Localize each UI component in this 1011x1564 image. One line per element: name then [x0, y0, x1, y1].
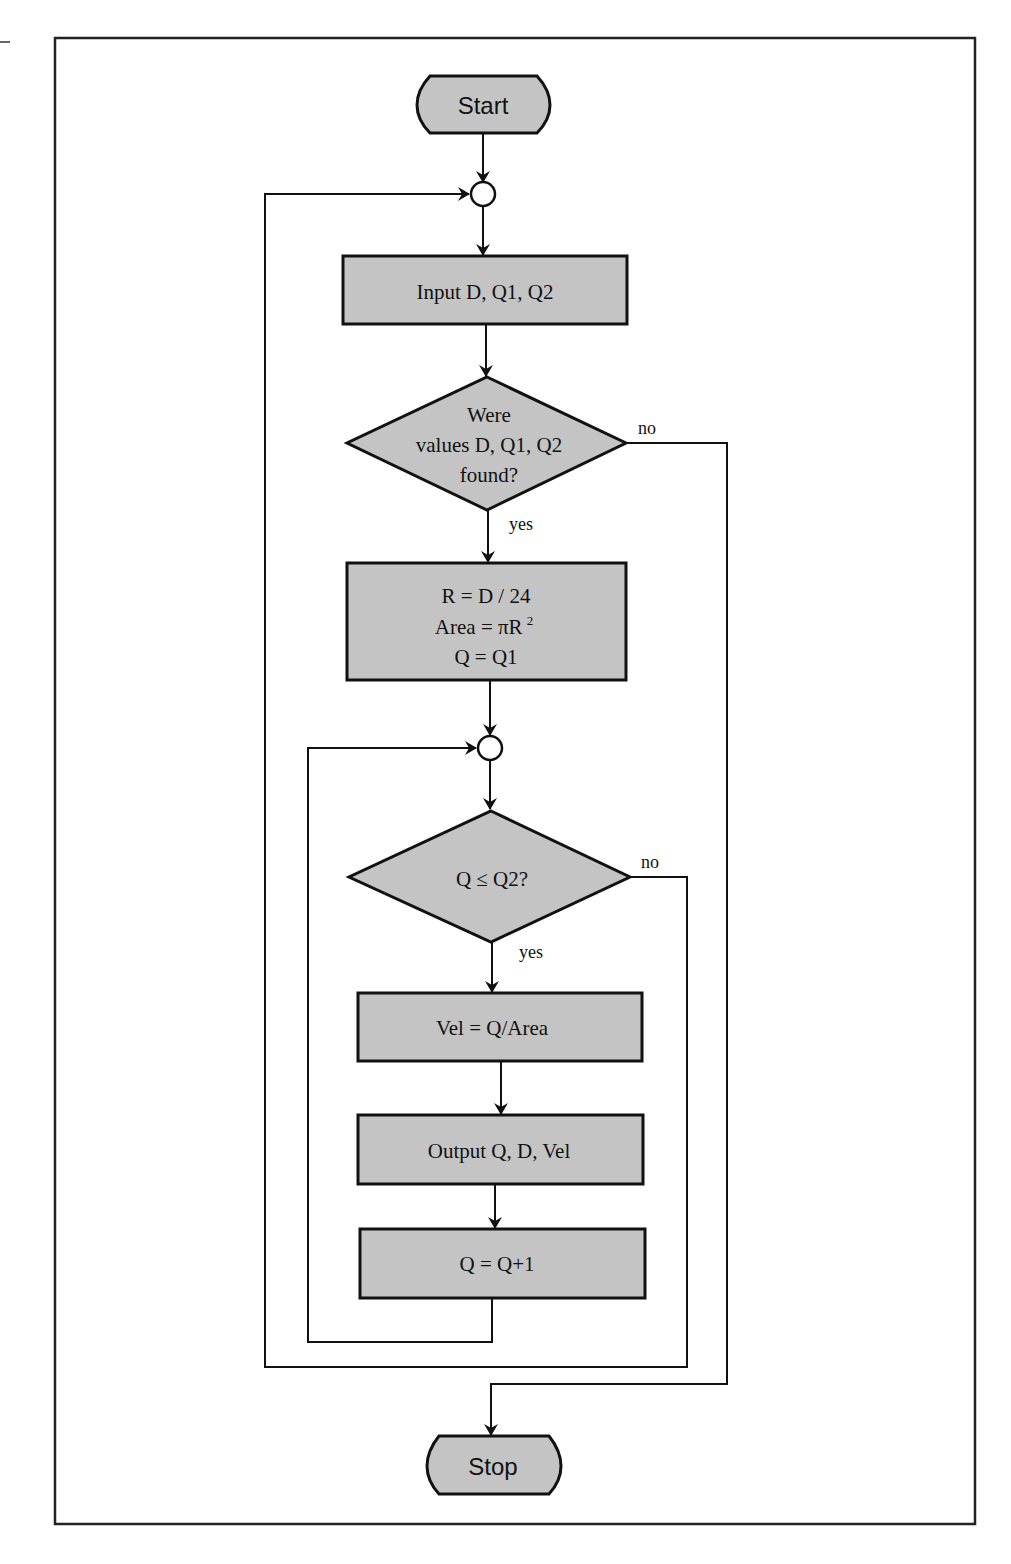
input-process: Input D, Q1, Q2 — [343, 256, 627, 324]
stop-terminal: Stop — [427, 1436, 561, 1494]
found-no-label: no — [638, 418, 656, 438]
output-process: Output Q, D, Vel — [358, 1115, 643, 1184]
stop-label: Stop — [468, 1453, 517, 1480]
input-label: Input D, Q1, Q2 — [416, 280, 553, 304]
start-terminal: Start — [417, 76, 550, 133]
output-label: Output Q, D, Vel — [428, 1139, 571, 1163]
init-line2: Area = πR2 — [435, 613, 533, 639]
start-label: Start — [458, 92, 509, 119]
init-line3: Q = Q1 — [454, 645, 517, 669]
loop-connector-outer — [471, 182, 495, 206]
velocity-process: Vel = Q/Area — [358, 993, 642, 1061]
found-decision: Were values D, Q1, Q2 found? — [347, 377, 626, 510]
compare-no-label: no — [641, 852, 659, 872]
increment-label: Q = Q+1 — [459, 1252, 534, 1276]
outer-loop-return-line — [265, 194, 687, 1367]
found-yes-label: yes — [509, 514, 533, 534]
compare-yes-label: yes — [519, 942, 543, 962]
increment-process: Q = Q+1 — [360, 1229, 645, 1298]
found-line1: Were — [467, 403, 511, 427]
init-process: R = D / 24 Area = πR2 Q = Q1 — [347, 563, 626, 680]
init-line1: R = D / 24 — [442, 584, 531, 608]
compare-label: Q ≤ Q2? — [456, 867, 528, 891]
velocity-label: Vel = Q/Area — [436, 1016, 549, 1040]
compare-decision: Q ≤ Q2? — [349, 811, 630, 942]
loop-connector-inner — [478, 736, 502, 760]
flowchart-canvas: Start Input D, Q1, Q2 Were values D, Q1,… — [0, 0, 1011, 1564]
found-line2: values D, Q1, Q2 — [416, 433, 562, 457]
found-line3: found? — [460, 463, 518, 487]
